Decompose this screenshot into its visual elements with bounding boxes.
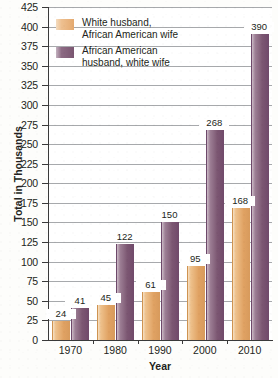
bar-2000-series1	[187, 266, 205, 340]
bar-1970-series1	[52, 321, 70, 340]
x-axis-tick	[93, 340, 94, 344]
x-axis-tick	[227, 340, 228, 344]
bar-value-label: 168	[225, 196, 255, 206]
legend-swatch-purple-icon	[56, 47, 74, 58]
legend-swatch-tan-icon	[56, 19, 74, 30]
bar-value-label: 268	[199, 118, 229, 128]
x-axis-tick	[182, 340, 183, 344]
y-tick-label: 25	[2, 314, 38, 326]
x-tick-label: 1970	[48, 344, 92, 356]
x-axis-tick	[138, 340, 139, 344]
bar-value-label: 150	[155, 210, 185, 220]
y-tick-label: 325	[2, 79, 38, 91]
y-tick-label: 0	[2, 334, 38, 346]
bar-value-label: 390	[244, 22, 274, 32]
y-axis-title: Total in Thousands	[12, 109, 24, 239]
bar-value-label: 45	[91, 293, 121, 303]
bar-1990-series1	[142, 292, 160, 340]
bar-chart: 0255075100125150175200225250275300325350…	[0, 0, 278, 378]
x-tick-label: 1990	[138, 344, 182, 356]
y-tick-label: 375	[2, 40, 38, 52]
bar-value-label: 61	[136, 280, 166, 290]
y-tick-label: 75	[2, 275, 38, 287]
y-tick-label: 350	[2, 60, 38, 72]
bar-2000-series2	[206, 130, 224, 340]
legend-label: African American husband, white wife	[82, 45, 170, 68]
bar-2010-series1	[232, 208, 250, 340]
x-tick-label: 2010	[228, 344, 272, 356]
legend: White husband, African American wife Afr…	[56, 17, 206, 73]
x-tick-label: 1980	[93, 344, 137, 356]
y-tick-label: 400	[2, 21, 38, 33]
bar-value-label: 24	[46, 309, 76, 319]
bar-2010-series2	[251, 34, 269, 340]
legend-item-african-american-husband: African American husband, white wife	[56, 45, 206, 68]
legend-label: White husband, African American wife	[82, 17, 178, 40]
x-axis-title: Year	[48, 360, 272, 372]
y-tick-label: 50	[2, 295, 38, 307]
bar-value-label: 95	[180, 254, 210, 264]
bar-value-label: 122	[110, 232, 140, 242]
y-tick-label: 100	[2, 256, 38, 268]
bar-1980-series1	[97, 305, 115, 340]
x-tick-label: 2000	[183, 344, 227, 356]
x-axis-line	[48, 340, 273, 341]
legend-item-white-husband: White husband, African American wife	[56, 17, 206, 40]
y-tick-label: 425	[2, 1, 38, 13]
